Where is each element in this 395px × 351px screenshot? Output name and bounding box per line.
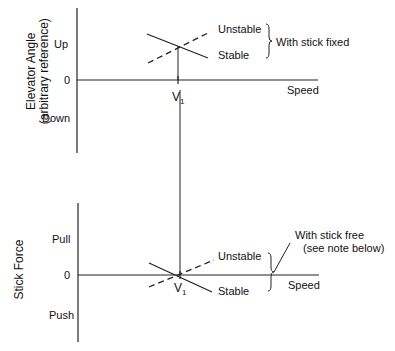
v1-label-bottom: V1 [174, 282, 186, 297]
stick-free-label: With stick free [295, 230, 364, 241]
tick-zero-bottom: 0 [64, 270, 70, 281]
v1-label-top: V1 [172, 91, 184, 106]
speed-label-bottom: Speed [288, 280, 320, 291]
unstable-label-top: Unstable [218, 24, 261, 35]
v: V [172, 90, 180, 104]
bottom-y-axis-title: Stick Force [13, 230, 26, 310]
tick-up: Up [54, 39, 68, 50]
v-sub: 1 [182, 288, 186, 297]
stick-free-note: (see note below) [303, 243, 384, 254]
tick-pull: Pull [52, 234, 70, 245]
tick-zero-top: 0 [64, 75, 70, 86]
top-unstable-line [148, 32, 210, 63]
tick-down: Down [42, 113, 70, 124]
bottom-brace [268, 253, 274, 291]
stick-fixed-label: With stick fixed [276, 37, 349, 48]
stick-free-pointer [274, 243, 290, 272]
v-sub: 1 [180, 97, 184, 106]
tick-push: Push [49, 310, 74, 321]
top-brace [266, 24, 272, 58]
stable-label-bottom: Stable [218, 286, 249, 297]
unstable-label-bottom: Unstable [218, 251, 261, 262]
stable-label-top: Stable [218, 50, 249, 61]
diagram-lines [0, 0, 395, 351]
v: V [174, 281, 182, 295]
speed-label-top: Speed [287, 85, 319, 96]
